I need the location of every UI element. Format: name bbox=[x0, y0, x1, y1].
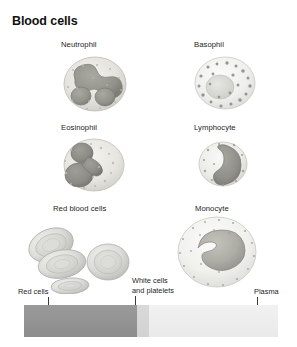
cell-label-monocyte: Monocyte bbox=[195, 204, 229, 213]
bar-segment-red-cells bbox=[24, 305, 137, 337]
eosinophil-illustration bbox=[53, 136, 139, 196]
bar-segment-white-cells bbox=[137, 305, 149, 337]
bar-label-white-cells-line1: White cells bbox=[132, 276, 174, 286]
cell-label-red-blood-cells: Red blood cells bbox=[53, 204, 106, 213]
cell-label-basophil: Basophil bbox=[194, 40, 224, 49]
bar-label-plasma: Plasma bbox=[254, 287, 279, 297]
blood-fraction-bar bbox=[24, 305, 278, 337]
lymphocyte-illustration bbox=[192, 138, 258, 192]
page-title: Blood cells bbox=[12, 14, 78, 28]
cell-label-neutrophil: Neutrophil bbox=[61, 40, 97, 49]
bar-segment-plasma bbox=[149, 305, 278, 337]
cell-label-lymphocyte: Lymphocyte bbox=[194, 123, 236, 132]
basophil-illustration bbox=[186, 54, 266, 114]
bar-tick-red-cells bbox=[48, 297, 49, 305]
bar-tick-white-cells bbox=[135, 296, 136, 305]
blood-cells-figure: Blood cells Neutrophil bbox=[0, 0, 297, 347]
bar-tick-plasma bbox=[257, 297, 258, 305]
cell-label-eosinophil: Eosinophil bbox=[61, 123, 97, 132]
red-blood-cells-illustration bbox=[20, 218, 138, 294]
bar-label-white-cells: White cells and platelets bbox=[132, 276, 174, 295]
monocyte-illustration bbox=[167, 214, 267, 292]
bar-label-white-cells-line2: and platelets bbox=[132, 286, 174, 296]
bar-label-red-cells: Red cells bbox=[18, 287, 48, 297]
neutrophil-illustration bbox=[53, 54, 139, 116]
